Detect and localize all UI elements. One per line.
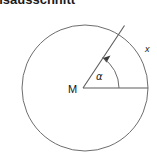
circle-sector-drawing: M α x [0, 0, 157, 160]
label-center-m: M [68, 83, 77, 95]
label-angle-alpha: α [96, 71, 103, 82]
label-radius-x: x [144, 44, 150, 54]
angle-arc-marker [102, 58, 119, 89]
geometry-figure: eisausschnitt M α x [0, 0, 157, 160]
